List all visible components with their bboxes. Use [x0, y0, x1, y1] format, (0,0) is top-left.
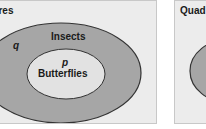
venn-diagram-left [0, 1, 157, 124]
outer-set-ellipse-right [190, 39, 206, 103]
venn-panel-right: Quad [174, 0, 206, 124]
outer-set-label: Insects [51, 31, 85, 42]
venn-panel-left: tures Insects q p Butterflies [0, 0, 157, 124]
panel-title-right: Quad [180, 5, 206, 16]
venn-diagram-right [175, 1, 206, 124]
panel-title-left: tures [0, 5, 13, 16]
inner-set-label: Butterflies [38, 68, 87, 79]
inner-set-variable: p [62, 57, 68, 68]
outer-set-variable: q [13, 40, 19, 51]
